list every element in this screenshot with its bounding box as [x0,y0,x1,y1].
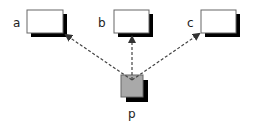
node-c-box [201,10,236,33]
node-b[interactable] [114,10,153,37]
diagram-canvas: a b c p [0,0,255,127]
edge-p-to-a [66,35,132,80]
node-a-box [27,10,63,33]
node-b-box [114,10,149,33]
node-a-label: a [13,16,20,30]
node-a[interactable] [27,10,67,37]
node-b-label: b [98,16,106,30]
node-p-label: p [128,107,136,121]
edge-p-to-c [132,34,199,80]
node-p[interactable] [121,75,148,102]
node-c-label: c [187,16,194,30]
node-c[interactable] [201,10,240,37]
